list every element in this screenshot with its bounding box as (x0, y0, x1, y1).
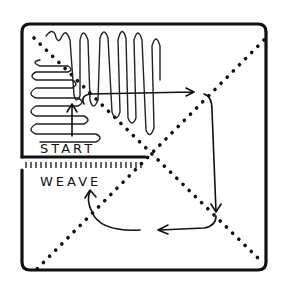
weave-label: WEAVE (40, 174, 101, 189)
start-label: START (40, 141, 95, 156)
direction-arrow-down (204, 94, 221, 212)
direction-arrow-left (158, 216, 216, 234)
fringe-tick-marks (26, 162, 141, 168)
weft-vertical-loops (46, 31, 160, 134)
direction-arrow-up-to-weave (85, 190, 140, 230)
direction-arrow-right (83, 88, 194, 104)
weaving-diagram: START WEAVE (0, 0, 296, 302)
start-up-arrow (67, 104, 77, 136)
